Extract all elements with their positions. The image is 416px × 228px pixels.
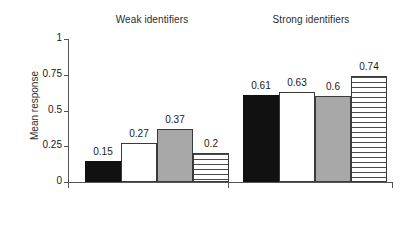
- bar: [157, 129, 193, 182]
- bar-chart: Weak identifiers Strong identifiers Mean…: [0, 0, 416, 228]
- bar: [351, 76, 387, 182]
- bar-value-label: 0.74: [343, 61, 395, 72]
- bar: [279, 92, 315, 182]
- bar: [121, 143, 157, 182]
- bar-value-label: 0.2: [185, 138, 237, 149]
- bar: [243, 95, 279, 182]
- bar: [85, 161, 121, 182]
- bar: [315, 96, 351, 182]
- bar-value-label: 0.37: [149, 114, 201, 125]
- plot-area: 0.150.270.370.20.610.630.60.74: [0, 0, 416, 228]
- bar: [193, 153, 229, 182]
